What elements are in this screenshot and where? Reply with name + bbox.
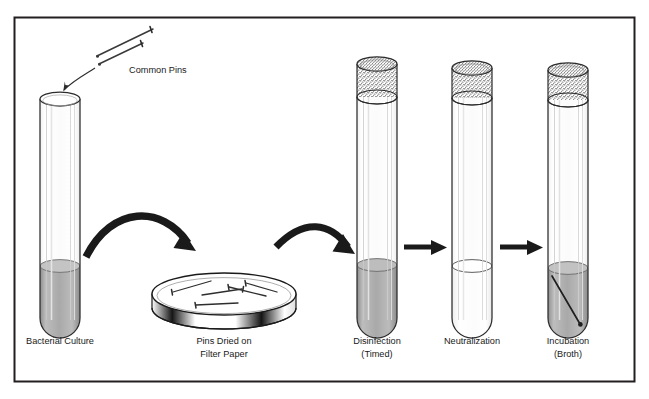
vessel-neutralization: Neutralization	[444, 61, 500, 346]
vessel-disinfection: Disinfection (Timed)	[353, 57, 401, 359]
label-pins-dried-line1: Pins Dried on	[196, 336, 251, 346]
label-common-pins: Common Pins	[129, 65, 187, 75]
label-disinfection-line2: (Timed)	[361, 349, 392, 359]
vessel-incubation: Incubation (Broth)	[547, 63, 589, 359]
cotton-plug-disinfection	[357, 57, 397, 104]
label-disinfection-line1: Disinfection	[353, 336, 401, 346]
figure-border	[15, 18, 635, 382]
label-pins-dried-line2: Filter Paper	[200, 349, 248, 359]
disinfection-process-diagram: Common Pins Bacterial Culture	[0, 0, 649, 399]
label-bacterial-culture: Bacterial Culture	[26, 336, 94, 346]
label-incubation-line1: Incubation	[547, 336, 589, 346]
figure-root: Common Pins Bacterial Culture	[0, 0, 649, 399]
label-incubation-line2: (Broth)	[554, 349, 582, 359]
label-neutralization: Neutralization	[444, 336, 500, 346]
